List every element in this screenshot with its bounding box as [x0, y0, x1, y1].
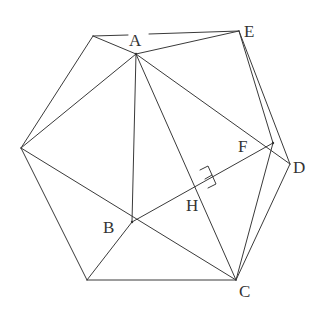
point-b [131, 221, 133, 223]
segment-a-b [132, 54, 136, 222]
label-a: A [129, 31, 142, 50]
label-b: B [103, 218, 114, 237]
segment-a-c [136, 54, 236, 280]
segment-e-f [239, 31, 273, 143]
label-e: E [244, 22, 254, 41]
right-angle-marker [200, 166, 212, 179]
point-a [135, 53, 137, 55]
segment-l-a [21, 54, 136, 148]
segment-p1-l [21, 36, 93, 148]
geometry-diagram: A E F D H B C [0, 0, 323, 311]
segment-a-d [136, 54, 290, 164]
point-f [272, 142, 274, 144]
label-c: C [239, 282, 250, 301]
segment-b-f [132, 143, 273, 222]
label-h: H [186, 196, 198, 215]
segment-p1-gap-left [93, 35, 128, 36]
label-d: D [293, 158, 305, 177]
label-f: F [238, 137, 247, 156]
segment-a-e [136, 31, 239, 54]
